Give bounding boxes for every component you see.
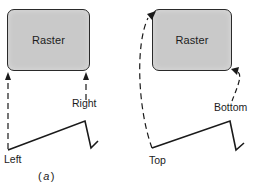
left-scan-line	[8, 121, 98, 150]
diagram-lines	[0, 0, 259, 189]
label-right: Right	[72, 98, 97, 109]
figure-caption: (a)	[38, 171, 56, 182]
label-top: Top	[149, 155, 166, 166]
right-edge-arrow	[83, 72, 89, 100]
label-left: Left	[4, 154, 22, 165]
bottom-curved-arrow	[231, 67, 240, 101]
caption-letter: a	[43, 170, 51, 182]
left-edge-arrow	[5, 72, 11, 149]
right-scan-line	[152, 121, 244, 150]
raster-mapping-figure: Raster Raster	[0, 0, 259, 189]
label-bottom: Bottom	[214, 102, 247, 113]
top-curved-arrow	[140, 11, 156, 148]
